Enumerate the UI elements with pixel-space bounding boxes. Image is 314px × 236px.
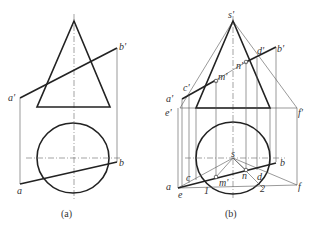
label-b-prime: b': [119, 41, 127, 52]
label-e: e: [178, 189, 183, 200]
label-n: n: [242, 170, 247, 181]
line-ef-top: [178, 185, 297, 188]
label-m-prime: m': [218, 71, 228, 82]
caption-b: (b): [225, 208, 237, 220]
panel-b: s' d' b' n' m' c' a' e' f' s b c a e m' …: [165, 9, 304, 220]
line-ab-top: [20, 162, 117, 184]
point-m: [214, 175, 218, 179]
cone-front-view: [37, 21, 110, 107]
label-c-prime: c': [183, 82, 190, 93]
label-s: s: [231, 148, 235, 159]
label-s-prime: s': [228, 9, 235, 20]
label-b-prime: b': [277, 43, 285, 54]
label-c: c: [186, 172, 191, 183]
label-a-prime: a': [166, 93, 174, 104]
label-e-prime: e': [165, 107, 172, 118]
label-1: 1: [204, 185, 209, 196]
label-n-prime: n': [236, 60, 244, 71]
label-a: a: [17, 185, 22, 196]
label-m-prime-top: m': [219, 177, 229, 188]
label-d-prime: d': [257, 45, 265, 56]
label-f: f: [298, 181, 302, 192]
label-b: b: [119, 157, 124, 168]
panel-a: a' b' a b (a): [8, 14, 127, 220]
projection-drawing: a' b' a b (a): [0, 0, 314, 236]
label-a-prime: a': [8, 92, 16, 103]
label-a: a: [166, 181, 171, 192]
label-2: 2: [260, 183, 265, 194]
label-f-prime: f': [298, 107, 304, 118]
label-b: b: [280, 157, 285, 168]
caption-a: (a): [61, 208, 72, 220]
